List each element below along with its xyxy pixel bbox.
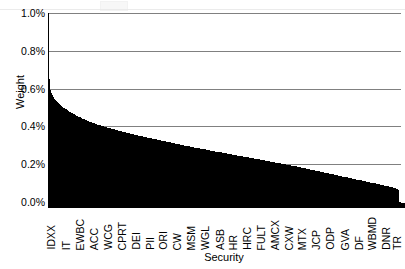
y-axis-tick-label: 0.2% [0, 158, 45, 170]
x-axis-tick-label: IDXX [46, 225, 57, 250]
y-axis-tick-label: 0.6% [0, 83, 45, 95]
x-axis-tick-label: ASB [215, 229, 226, 250]
x-axis-tick-labels: IDXXITEWBCACCWCGCPRTDEIPIIORICWMSMWGLASB… [48, 208, 400, 250]
x-axis-tick-label: DEI [131, 232, 142, 250]
x-axis-tick-label: ORI [158, 231, 169, 250]
x-axis-tick-label: ACC [89, 228, 100, 250]
x-axis-tick-label: JCP [311, 230, 322, 250]
x-axis-title: Security [48, 251, 400, 263]
x-axis-tick-label: TR [392, 236, 403, 250]
y-axis-tick-label: 0.8% [0, 45, 45, 57]
x-axis-tick-label: ODP [325, 227, 336, 250]
x-axis-tick-label: CPRT [117, 222, 128, 250]
x-axis-tick-label: IT [61, 241, 72, 250]
x-axis-tick-label: EWBC [75, 219, 86, 251]
x-axis-tick-label: WBMD [367, 217, 378, 250]
x-axis-tick-label: PII [145, 237, 156, 250]
x-axis-tick-label: CW [172, 233, 183, 251]
x-axis-tick-label: WCG [103, 224, 114, 250]
bar [398, 190, 399, 202]
y-axis-tick-label: 0.0% [0, 196, 45, 208]
bar-series [49, 13, 401, 202]
x-axis-tick-label: MTX [297, 228, 308, 250]
y-axis-tick-label: 0.4% [0, 120, 45, 132]
x-axis-tick-label: HRC [242, 227, 253, 250]
x-axis-tick-label: CXW [284, 226, 295, 251]
y-axis-tick-label: 1.0% [0, 7, 45, 19]
x-axis-tick-label: WGL [200, 226, 211, 250]
x-axis-tick-label: DF [354, 236, 365, 250]
x-axis-tick-label: AMCX [270, 220, 281, 250]
plot-area [48, 13, 401, 203]
x-axis-tick-label: DNR [381, 227, 392, 250]
y-axis-tick-labels: 0.0%0.2%0.4%0.6%0.8%1.0% [0, 0, 45, 269]
x-axis-tick-label: FULT [256, 225, 267, 250]
x-axis-tick-label: MSM [186, 226, 197, 251]
x-axis-tick-label: GVA [340, 229, 351, 250]
scan-rule [0, 9, 405, 10]
weight-by-security-chart: Weight 0.0%0.2%0.4%0.6%0.8%1.0% IDXXITEW… [0, 0, 405, 269]
x-axis-tick-label: HR [228, 235, 239, 250]
